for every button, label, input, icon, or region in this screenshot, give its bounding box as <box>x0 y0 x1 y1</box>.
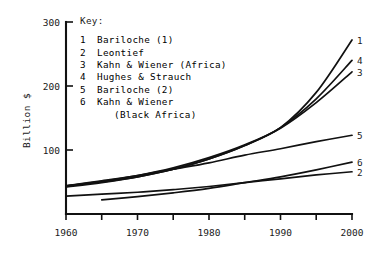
y-axis-title: Billion $ <box>22 93 32 148</box>
legend-key-3: 3 <box>80 59 97 71</box>
curve-end-label-6: 6 <box>357 158 371 167</box>
legend-item-1: 1 Bariloche (1) <box>80 34 227 46</box>
x-tick-label-1960: 1960 <box>46 228 86 238</box>
legend-key-1: 1 <box>80 34 97 46</box>
legend-item-3: 3 Kahn & Wiener (Africa) <box>80 59 227 71</box>
y-tick-label-300: 300 <box>26 18 60 28</box>
legend-label-6-continuation: (Black Africa) <box>80 109 227 121</box>
curve-end-label-2: 2 <box>357 168 371 177</box>
legend-key-4: 4 <box>80 71 97 83</box>
legend: Key: 1 Bariloche (1) 2 Leontief 3 Kahn &… <box>80 16 227 121</box>
legend-key-2: 2 <box>80 47 97 59</box>
legend-label-1: Bariloche (1) <box>97 34 174 46</box>
curve-end-label-4: 4 <box>357 56 371 65</box>
legend-label-5: Bariloche (2) <box>97 84 174 96</box>
legend-label-6: Kahn & Wiener <box>97 96 174 108</box>
y-tick-label-100: 100 <box>26 146 60 156</box>
line-chart-figure: Billion $ 300 200 100 1960 1970 1980 199… <box>0 0 382 262</box>
legend-label-3: Kahn & Wiener (Africa) <box>97 59 227 71</box>
curve-series-6 <box>102 162 352 200</box>
curve-series-2 <box>66 172 352 196</box>
x-tick-label-1990: 1990 <box>261 228 301 238</box>
y-tick-label-200: 200 <box>26 82 60 92</box>
x-tick-label-1980: 1980 <box>189 228 229 238</box>
curve-end-label-1: 1 <box>357 36 371 45</box>
curve-series-5 <box>66 135 352 186</box>
legend-item-6: 6 Kahn & Wiener <box>80 96 227 108</box>
curve-end-label-3: 3 <box>357 68 371 77</box>
curve-end-label-5: 5 <box>357 131 371 140</box>
legend-label-4: Hughes & Strauch <box>97 71 191 83</box>
legend-label-2: Leontief <box>97 47 144 59</box>
x-tick-label-1970: 1970 <box>118 228 158 238</box>
legend-key-6: 6 <box>80 96 97 108</box>
legend-item-2: 2 Leontief <box>80 47 227 59</box>
legend-title: Key: <box>80 16 227 25</box>
legend-item-4: 4 Hughes & Strauch <box>80 71 227 83</box>
legend-item-5: 5 Bariloche (2) <box>80 84 227 96</box>
legend-key-5: 5 <box>80 84 97 96</box>
x-tick-label-2000: 2000 <box>332 228 372 238</box>
